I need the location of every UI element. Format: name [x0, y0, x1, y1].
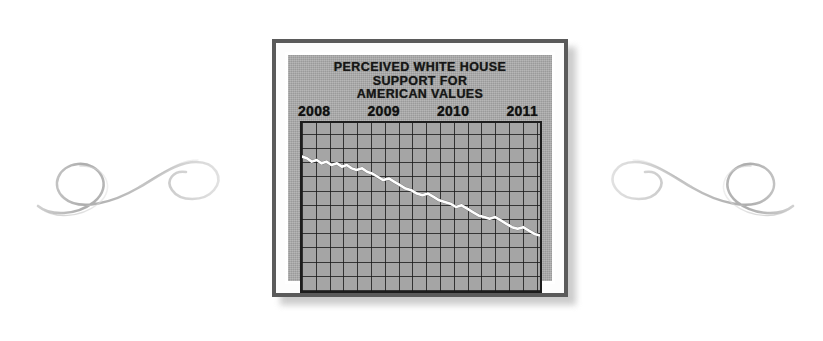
picture-frame: PERCEIVED WHITE HOUSE SUPPORT FOR AMERIC… [272, 39, 568, 297]
swirl-flourish-icon-left [28, 128, 233, 223]
x-axis-year-labels: 2008 2009 2010 2011 [296, 102, 544, 120]
x-tick-2010: 2010 [437, 104, 469, 119]
swirl-flourish-icon-right [598, 128, 803, 223]
title-line-1: PERCEIVED WHITE HOUSE [296, 61, 544, 75]
chart-grid [300, 121, 542, 293]
x-tick-2011: 2011 [506, 104, 538, 119]
declining-trend-line [302, 123, 540, 291]
chart-plot-area [300, 121, 542, 293]
title-line-3: AMERICAN VALUES [296, 88, 544, 102]
title-line-2: SUPPORT FOR [296, 75, 544, 89]
frame-mat: PERCEIVED WHITE HOUSE SUPPORT FOR AMERIC… [285, 52, 555, 284]
chart-card: PERCEIVED WHITE HOUSE SUPPORT FOR AMERIC… [288, 55, 552, 281]
page-title: PERCEIVED WHITE HOUSE SUPPORT FOR AMERIC… [296, 61, 544, 102]
x-tick-2009: 2009 [367, 104, 399, 119]
x-tick-2008: 2008 [298, 104, 330, 119]
